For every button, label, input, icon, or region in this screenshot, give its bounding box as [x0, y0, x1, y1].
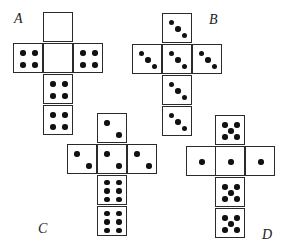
- pip-dot-icon: [222, 227, 227, 232]
- pip-dot-icon: [199, 159, 204, 164]
- face-d-lower: [215, 177, 245, 207]
- pip-dot-icon: [228, 221, 233, 226]
- pip-dot-icon: [234, 227, 239, 232]
- face-d-right: [245, 146, 275, 176]
- net-label-d: D: [262, 228, 272, 242]
- face-d-bottom: [215, 208, 245, 238]
- pip-dot-icon: [222, 196, 227, 201]
- pip-dot-icon: [228, 159, 233, 164]
- pip-dot-icon: [222, 122, 227, 127]
- dice-nets-figure: A B C D: [0, 0, 286, 249]
- face-d-center: [215, 146, 245, 176]
- pip-dot-icon: [228, 190, 233, 195]
- pip-dot-icon: [222, 134, 227, 139]
- face-d-top: [215, 115, 245, 145]
- pip-dot-icon: [234, 215, 239, 220]
- pip-dot-icon: [222, 215, 227, 220]
- net-d: D: [0, 0, 286, 249]
- pip-dot-icon: [234, 122, 239, 127]
- pip-dot-icon: [234, 134, 239, 139]
- pip-dot-icon: [222, 184, 227, 189]
- pip-dot-icon: [234, 184, 239, 189]
- pip-dot-icon: [228, 128, 233, 133]
- pip-dot-icon: [234, 196, 239, 201]
- face-d-left: [186, 146, 216, 176]
- pip-dot-icon: [258, 159, 263, 164]
